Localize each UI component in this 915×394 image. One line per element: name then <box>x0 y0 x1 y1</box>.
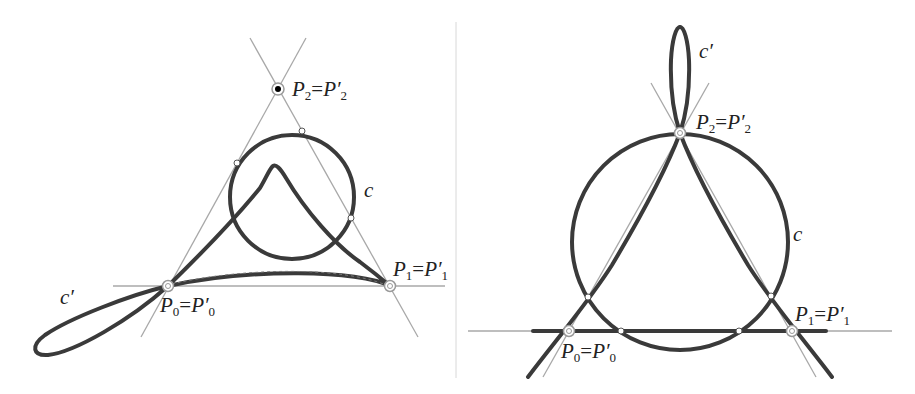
left-circle-point <box>348 215 354 221</box>
right-circle-point <box>618 328 624 334</box>
left-loop-c-prime <box>35 286 168 355</box>
right-label-p1: P1=P′1 <box>794 302 850 328</box>
left-label-p1: P1=P′1 <box>392 257 448 283</box>
left-label-c-prime: c′ <box>60 285 74 309</box>
right-panel: P2=P′2 P1=P′1 P0=P′0 c c′ <box>468 27 892 377</box>
right-circle-point <box>585 294 591 300</box>
right-circle-point <box>768 293 774 299</box>
left-curve-c-prime <box>168 166 390 287</box>
left-circle-point <box>234 160 240 166</box>
right-label-p2: P2=P′2 <box>695 110 751 136</box>
left-label-c: c <box>364 178 374 202</box>
left-label-p2: P2=P′2 <box>291 77 347 103</box>
right-label-p0: P0=P′0 <box>560 339 616 365</box>
left-label-p0: P0=P′0 <box>159 293 215 319</box>
diagram-canvas: P2=P′2 P1=P′1 P0=P′0 c c′ <box>0 0 915 394</box>
right-point-p2 <box>675 128 686 139</box>
right-label-c: c <box>793 222 803 246</box>
left-point-p2 <box>272 83 284 95</box>
left-circle-point <box>299 128 305 134</box>
left-panel: P2=P′2 P1=P′1 P0=P′0 c c′ <box>35 38 448 355</box>
right-label-c-prime: c′ <box>699 39 713 63</box>
right-point-p1 <box>787 326 798 337</box>
right-circle-point <box>736 328 742 334</box>
right-point-p0 <box>564 326 575 337</box>
left-point-p0 <box>163 281 174 292</box>
left-point-p1 <box>385 281 396 292</box>
right-circle-c <box>572 134 788 350</box>
